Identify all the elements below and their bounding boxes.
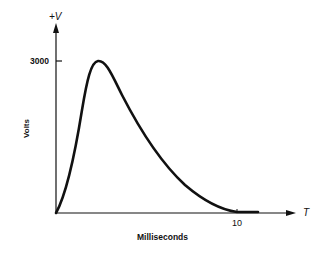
- chart-canvas: [0, 0, 323, 253]
- y-axis-arrow-icon: [53, 23, 59, 33]
- y-axis-symbol: +V: [49, 11, 62, 22]
- x-axis-arrow-icon: [286, 210, 296, 216]
- x-tick-label-10: 10: [232, 218, 242, 228]
- x-axis-symbol: T: [303, 207, 309, 218]
- x-axis-label: Milliseconds: [137, 232, 188, 242]
- y-axis-label: Volts: [22, 119, 31, 138]
- voltage-curve: [56, 61, 258, 213]
- y-tick-label-3000: 3000: [30, 56, 49, 66]
